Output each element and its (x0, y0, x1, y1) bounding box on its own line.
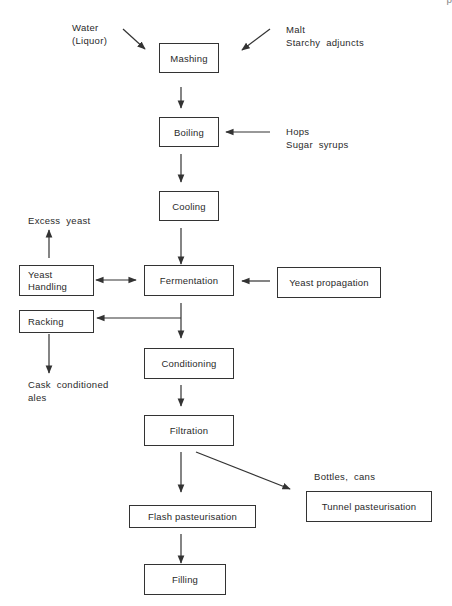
step-racking: Racking (19, 310, 94, 333)
step-conditioning: Conditioning (144, 348, 234, 379)
input-water: Water(Liquor) (72, 21, 107, 47)
step-flash-pasteurisation: Flash pasteurisation (129, 505, 256, 528)
input-hops: HopsSugar syrups (286, 125, 349, 151)
input-malt: MaltStarchy adjuncts (286, 23, 364, 49)
step-mashing: Mashing (159, 43, 219, 73)
step-filling: Filling (144, 564, 226, 595)
output-excess-yeast: Excess yeast (28, 214, 91, 227)
step-yeast-handling: YeastHandling (19, 265, 94, 296)
step-filtration: Filtration (144, 415, 234, 446)
input-bottles-cans: Bottles, cans (314, 470, 375, 483)
step-tunnel-pasteurisation: Tunnel pasteurisation (306, 491, 432, 522)
output-cask-ales: Cask conditionedales (28, 378, 109, 404)
step-cooling: Cooling (159, 191, 219, 221)
step-boiling: Boiling (159, 117, 219, 147)
step-fermentation: Fermentation (144, 265, 234, 296)
step-yeast-propagation: Yeast propagation (277, 267, 381, 298)
